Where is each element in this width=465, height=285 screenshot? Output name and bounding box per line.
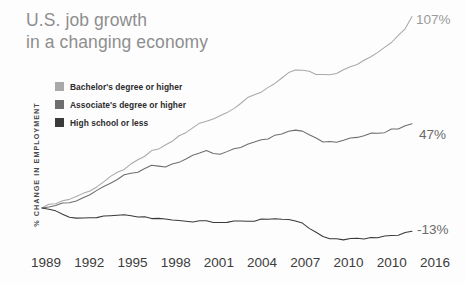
x-axis-tick-label: 1995	[117, 255, 147, 270]
chart-plot-area	[0, 0, 465, 285]
x-axis-tick-label: 1992	[74, 255, 104, 270]
x-axis-tick-label: 1989	[31, 255, 61, 270]
series-line	[42, 124, 412, 208]
series-line	[42, 16, 412, 208]
series-end-value-label: 107%	[416, 12, 451, 27]
x-axis-tick-label: 1998	[161, 255, 191, 270]
x-axis-tick-label: 2010	[377, 255, 407, 270]
x-axis-tick-label: 2007	[290, 255, 320, 270]
x-axis-tick-label: 2001	[204, 255, 234, 270]
x-axis-tick-label: 2004	[247, 255, 277, 270]
series-end-value-label: -13%	[417, 222, 449, 237]
x-axis: 1989199219951998200120042007201020102016	[0, 255, 465, 277]
series-line	[42, 208, 412, 240]
chart-container: U.S. job growth in a changing economy Ba…	[0, 0, 465, 285]
series-end-value-label: 47%	[419, 127, 446, 142]
x-axis-tick-label: 2016	[420, 255, 450, 270]
x-axis-tick-label: 2010	[334, 255, 364, 270]
